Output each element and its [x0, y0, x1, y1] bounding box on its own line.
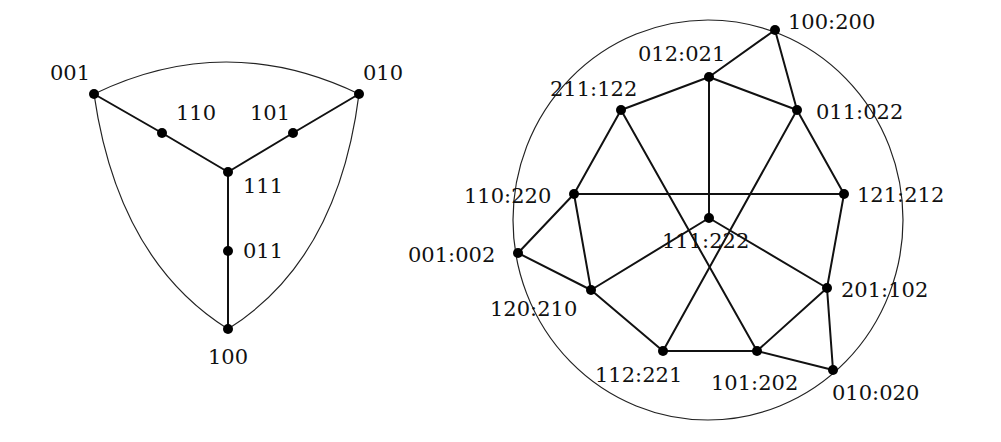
node-111 [223, 167, 233, 177]
node-112:221 [658, 346, 668, 356]
node-label: 110 [176, 101, 216, 125]
node-211:122 [616, 105, 626, 115]
node-110:220 [569, 189, 579, 199]
edge-100:200-011:022 [775, 30, 797, 110]
edge-120:210-112:221 [591, 290, 663, 351]
node-label: 111 [243, 174, 283, 198]
node-101:202 [752, 346, 762, 356]
edge-012:021-011:022 [709, 77, 797, 110]
edge-110-111 [162, 133, 228, 172]
node-101 [288, 128, 298, 138]
node-012:021 [704, 72, 714, 82]
node-label: 012:021 [638, 42, 725, 66]
node-label: 112:221 [595, 363, 682, 387]
node-label: 201:102 [841, 278, 928, 302]
node-label: 011:022 [816, 100, 903, 124]
node-010 [354, 89, 364, 99]
edge-001:002-120:210 [518, 253, 591, 290]
edge-201:102-010:020 [827, 288, 833, 370]
node-120:210 [586, 285, 596, 295]
node-111:222 [704, 213, 714, 223]
node-label: 121:212 [857, 183, 944, 207]
left-graph-cube: 001010110101111011100 [50, 61, 403, 369]
node-label: 111:222 [662, 229, 749, 253]
diagram-canvas: 001010110101111011100 100:200012:021211:… [0, 0, 1001, 442]
graph-diagram: 001010110101111011100 100:200012:021211:… [0, 0, 1001, 442]
edge-001-110 [94, 94, 162, 133]
left-graph-nodes [89, 89, 364, 334]
node-110 [157, 128, 167, 138]
node-010:020 [828, 365, 838, 375]
edge-101-111 [228, 133, 293, 172]
node-100:200 [770, 25, 780, 35]
node-201:102 [822, 283, 832, 293]
edge-121:212-201:102 [827, 194, 844, 288]
node-label: 100:200 [788, 10, 875, 34]
node-label: 010:020 [832, 381, 919, 405]
node-label: 010 [363, 61, 403, 85]
node-100 [223, 324, 233, 334]
edge-201:102-101:202 [757, 288, 827, 351]
node-001:002 [513, 248, 523, 258]
node-label: 100 [208, 345, 248, 369]
left-graph-arcs [94, 62, 359, 329]
node-label: 211:122 [550, 77, 637, 101]
node-label: 011 [243, 239, 283, 263]
edge-110:220-120:210 [574, 194, 591, 290]
node-121:212 [839, 189, 849, 199]
node-label: 001:002 [408, 243, 495, 267]
node-011 [223, 246, 233, 256]
node-001 [89, 89, 99, 99]
edge-211:122-110:220 [574, 110, 621, 194]
left-graph-edges [94, 94, 359, 329]
node-011:022 [792, 105, 802, 115]
right-graph-petersen: 100:200012:021211:122011:022110:220121:2… [408, 10, 944, 420]
edge-010-101 [293, 94, 359, 133]
arc-001-010 [94, 62, 359, 94]
node-label: 101:202 [711, 371, 798, 395]
node-label: 001 [50, 61, 90, 85]
left-graph-labels: 001010110101111011100 [50, 61, 403, 369]
edge-101:202-010:020 [757, 351, 833, 370]
node-label: 110:220 [464, 184, 551, 208]
node-label: 101 [250, 101, 290, 125]
node-label: 120:210 [490, 297, 577, 321]
